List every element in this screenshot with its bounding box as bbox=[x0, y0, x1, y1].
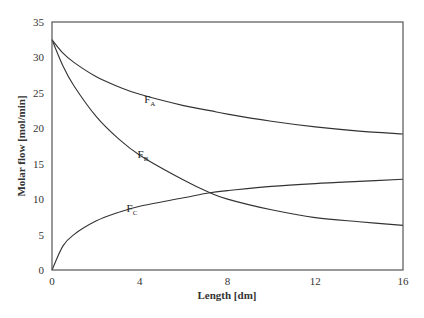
curve-fa bbox=[52, 40, 403, 134]
x-tick-label: 12 bbox=[310, 275, 321, 287]
y-tick-label: 35 bbox=[33, 16, 45, 28]
x-tick-label: 0 bbox=[49, 275, 55, 287]
curve-label-fb: FB bbox=[138, 148, 149, 163]
y-tick-label: 25 bbox=[33, 87, 45, 99]
y-axis-label: Molar flow [mol/min] bbox=[15, 95, 27, 196]
y-tick-label: 5 bbox=[39, 229, 45, 241]
y-tick-label: 10 bbox=[33, 193, 45, 205]
x-tick-label: 16 bbox=[398, 275, 410, 287]
curve-fb bbox=[52, 40, 403, 226]
y-tick-label: 20 bbox=[33, 122, 45, 134]
x-axis-ticks: 0481216 bbox=[49, 275, 409, 287]
x-tick-label: 8 bbox=[225, 275, 231, 287]
molar-flow-chart: 05101520253035 0481216 FAFBFC Length [dm… bbox=[0, 0, 424, 318]
plot-frame bbox=[52, 22, 403, 270]
x-tick-label: 4 bbox=[137, 275, 143, 287]
y-axis-ticks: 05101520253035 bbox=[33, 16, 45, 276]
curve-label-fa: FA bbox=[144, 93, 155, 108]
y-tick-label: 15 bbox=[33, 158, 45, 170]
curve-label-fc: FC bbox=[127, 202, 138, 217]
curve-fc bbox=[52, 179, 403, 270]
x-axis-label: Length [dm] bbox=[198, 289, 257, 301]
y-tick-label: 30 bbox=[33, 51, 45, 63]
curves: FAFBFC bbox=[52, 40, 403, 270]
y-tick-label: 0 bbox=[39, 264, 45, 276]
